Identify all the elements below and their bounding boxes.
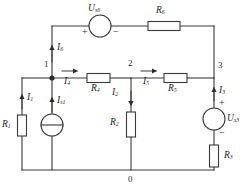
label-current-I2: I2 <box>112 88 118 98</box>
label-voltage-source-Us6: Us6 <box>88 4 100 14</box>
label-resistor-R1: R1 <box>2 120 11 130</box>
current-arrow-Is1 <box>49 97 54 112</box>
current-arrow-I5 <box>141 68 157 73</box>
label-node-0: 0 <box>128 175 133 184</box>
resistor-R4-body <box>87 74 110 83</box>
label-current-I3: I3 <box>219 86 225 96</box>
current-arrow-I2 <box>128 91 133 106</box>
label-voltage-source-Us3: Us3 <box>227 114 239 124</box>
resistor-R2-body <box>127 112 136 137</box>
label-node-2: 2 <box>128 59 133 68</box>
polarity-minus-Us3: − <box>219 128 225 138</box>
resistor-R5-body <box>164 74 187 83</box>
label-current-I1: I1 <box>27 93 33 103</box>
label-current-source-Is1: Is1 <box>57 96 65 106</box>
polarity-plus-Us6: + <box>82 27 88 37</box>
current-arrow-I1 <box>19 94 24 109</box>
label-node-3: 3 <box>218 61 223 70</box>
label-current-I5: I5 <box>143 77 149 87</box>
circuit-schematic-svg <box>0 0 252 194</box>
label-node-1: 1 <box>44 60 49 69</box>
voltage-source-Us6-circle <box>89 15 111 37</box>
label-resistor-R2: R2 <box>110 118 119 128</box>
resistor-R1-body <box>18 115 27 136</box>
label-current-I6: I6 <box>57 43 63 53</box>
label-resistor-R4: R4 <box>91 84 100 94</box>
resistor-R3-body <box>210 145 219 167</box>
label-resistor-R6: R6 <box>156 6 165 16</box>
polarity-plus-Us3: + <box>219 98 225 108</box>
circuit-diagram: Us6 + − R6 I6 1 2 3 0 I4 R4 I5 R5 I1 Is1… <box>0 0 252 194</box>
resistor-R6-body <box>148 22 180 31</box>
label-resistor-R5: R5 <box>168 84 177 94</box>
current-arrow-I4 <box>62 68 78 73</box>
current-arrow-I6 <box>49 45 54 62</box>
polarity-minus-Us6: − <box>113 27 119 37</box>
label-resistor-R3: R3 <box>224 151 233 161</box>
current-arrow-I3 <box>211 87 216 101</box>
junction-dot-node1 <box>49 75 54 80</box>
label-current-I4: I4 <box>64 77 70 87</box>
